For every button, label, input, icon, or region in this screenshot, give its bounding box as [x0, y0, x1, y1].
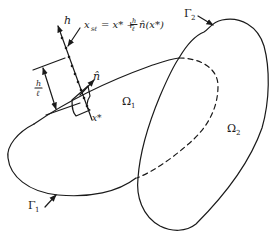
omega2-boundary: [138, 19, 269, 230]
svg-text:2: 2: [191, 14, 195, 22]
svg-text:1: 1: [131, 102, 135, 110]
h-axis-label: h: [64, 14, 71, 27]
overlapping-domains-diagram: h x sℓ = x* + h ℓ n̂(x*) h ℓ n̂ x* Ω 1 Ω…: [0, 0, 272, 232]
omega1-boundary: [8, 124, 136, 196]
svg-text:h: h: [36, 79, 41, 88]
gamma1-label: Γ 1: [28, 199, 39, 214]
formula: x sℓ = x* + h ℓ n̂(x*): [84, 17, 164, 33]
svg-text:h: h: [132, 17, 136, 25]
svg-text:2: 2: [236, 129, 240, 137]
gamma2-label: Γ 2: [184, 7, 195, 22]
scale-label: h ℓ: [35, 79, 42, 98]
formula-leader: [68, 28, 80, 46]
scale-bottom-tick: [46, 103, 80, 115]
svg-text:x: x: [84, 19, 90, 30]
scale-bar: [43, 68, 56, 109]
scale-top-tick: [33, 58, 65, 70]
omega1-hidden-boundary: [137, 58, 218, 178]
svg-text:ℓ: ℓ: [36, 89, 40, 98]
svg-text:Ω: Ω: [227, 122, 236, 135]
omega2-label: Ω 2: [227, 122, 240, 137]
gamma2-leader: [198, 16, 213, 25]
normal-label: n̂: [93, 70, 100, 83]
svg-text:Ω: Ω: [122, 95, 131, 108]
gamma1-leader: [45, 195, 56, 207]
svg-text:ℓ: ℓ: [131, 25, 135, 33]
svg-text:= x* +: = x* +: [101, 19, 135, 30]
omega1-top-boundary: [34, 58, 179, 124]
svg-text:n̂(x*): n̂(x*): [139, 19, 164, 30]
svg-text:1: 1: [35, 206, 39, 214]
omega1-label: Ω 1: [122, 95, 135, 110]
point-label: x*: [92, 113, 102, 123]
svg-text:sℓ: sℓ: [91, 25, 97, 33]
